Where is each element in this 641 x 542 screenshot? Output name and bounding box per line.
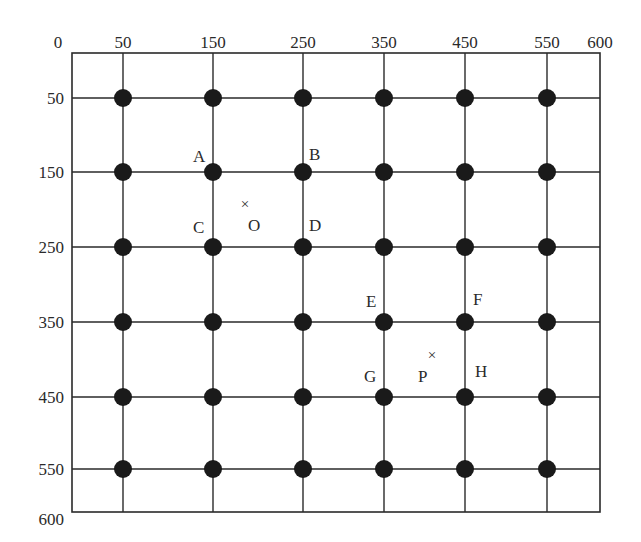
grid-node-dot (114, 89, 132, 107)
node-label-a: A (193, 147, 206, 166)
grid-node-dot (294, 163, 312, 181)
grid-node-dot (204, 89, 222, 107)
node-label-d: D (309, 216, 321, 235)
grid-node-dot (538, 313, 556, 331)
grid-node-dot (204, 238, 222, 256)
grid-node-dot (538, 388, 556, 406)
grid-node-dot (114, 388, 132, 406)
x-tick-label: 450 (452, 33, 478, 52)
grid-node-dot (114, 313, 132, 331)
x-tick-label: 600 (587, 33, 613, 52)
y-tick-label: 50 (47, 89, 64, 108)
grid-node-dot (456, 388, 474, 406)
x-axis-ticks: 050150250350450550600 (54, 33, 613, 52)
x-tick-label: 150 (200, 33, 226, 52)
marked-points: ×O×P (241, 196, 436, 386)
grid-node-dot (375, 163, 393, 181)
point-label-o: O (248, 216, 260, 235)
node-label-f: F (473, 290, 482, 309)
grid-node-dot (375, 238, 393, 256)
grid-node-dot (204, 388, 222, 406)
y-tick-label: 150 (39, 163, 65, 182)
y-axis-ticks: 50150250350450550600 (39, 89, 65, 529)
grid-diagram: 050150250350450550600 501502503504505506… (0, 0, 641, 542)
grid-node-dot (456, 89, 474, 107)
grid-node-dot (538, 238, 556, 256)
y-tick-label: 550 (39, 460, 65, 479)
grid-node-dot (375, 89, 393, 107)
grid-node-dot (456, 238, 474, 256)
cross-marker-icon: × (428, 347, 436, 363)
grid-node-dot (294, 460, 312, 478)
grid-nodes (114, 89, 556, 478)
grid-node-dot (538, 163, 556, 181)
grid-node-dot (204, 163, 222, 181)
grid-node-dot (294, 388, 312, 406)
grid-node-dot (204, 313, 222, 331)
grid-node-dot (294, 313, 312, 331)
grid-node-dot (456, 163, 474, 181)
grid-node-dot (114, 460, 132, 478)
grid-node-dot (294, 238, 312, 256)
x-tick-label: 250 (290, 33, 316, 52)
grid-node-dot (538, 460, 556, 478)
grid-node-dot (204, 460, 222, 478)
y-tick-label: 450 (39, 388, 65, 407)
grid-canvas: 050150250350450550600 501502503504505506… (0, 0, 641, 542)
y-tick-label: 250 (39, 238, 65, 257)
node-label-c: C (193, 218, 204, 237)
grid-node-dot (538, 89, 556, 107)
grid-node-dot (456, 460, 474, 478)
frame-border (72, 53, 600, 512)
cross-marker-icon: × (241, 196, 249, 212)
node-label-b: B (309, 145, 320, 164)
grid-node-dot (294, 89, 312, 107)
x-tick-label: 550 (534, 33, 560, 52)
node-label-g: G (364, 367, 376, 386)
grid-node-dot (114, 238, 132, 256)
y-tick-label: 350 (39, 313, 65, 332)
grid-node-dot (375, 388, 393, 406)
x-tick-label: 350 (371, 33, 397, 52)
node-label-h: H (475, 362, 487, 381)
grid-node-dot (375, 460, 393, 478)
node-labels: ABCDEFGH (193, 145, 487, 386)
grid-lines (72, 53, 600, 512)
grid-node-dot (375, 313, 393, 331)
node-label-e: E (366, 292, 376, 311)
x-tick-label: 0 (54, 33, 63, 52)
point-label-p: P (418, 367, 427, 386)
grid-node-dot (456, 313, 474, 331)
x-tick-label: 50 (115, 33, 132, 52)
grid-node-dot (114, 163, 132, 181)
y-tick-label: 600 (39, 510, 65, 529)
